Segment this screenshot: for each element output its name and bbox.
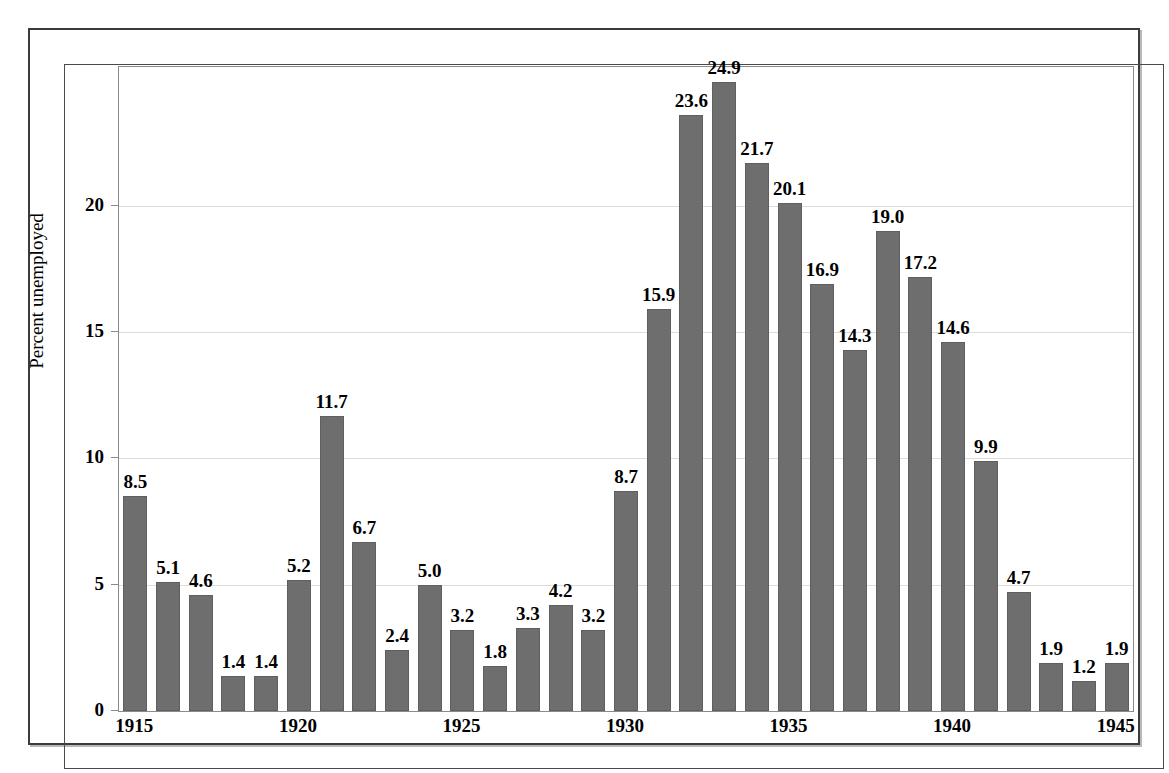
bar-value-label: 4.6 (177, 571, 225, 590)
bar[interactable] (581, 630, 605, 711)
bar[interactable] (679, 115, 703, 711)
bar-value-label: 4.2 (537, 581, 585, 600)
bar[interactable] (712, 82, 736, 711)
bar-value-label: 9.9 (962, 437, 1010, 456)
bar-value-label: 8.7 (602, 467, 650, 486)
bar-value-label: 19.0 (864, 207, 912, 226)
x-tick-label: 1930 (585, 716, 665, 735)
y-tick-label: 20 (64, 195, 104, 214)
y-tick-label: 15 (64, 321, 104, 340)
bar[interactable] (1072, 681, 1096, 711)
gridline (119, 332, 1133, 333)
plot-area: 8.55.14.61.41.45.211.76.72.45.03.21.83.3… (118, 66, 1134, 712)
bar[interactable] (810, 284, 834, 711)
bar-value-label: 2.4 (373, 626, 421, 645)
bar[interactable] (483, 666, 507, 711)
bar[interactable] (843, 350, 867, 711)
bar[interactable] (254, 676, 278, 711)
y-axis-label: Percent unemployed (26, 11, 48, 571)
x-axis-line (119, 711, 1133, 712)
bar-value-label: 1.9 (1093, 639, 1141, 658)
bar[interactable] (908, 277, 932, 711)
bar[interactable] (320, 416, 344, 711)
bar[interactable] (156, 582, 180, 711)
bar[interactable] (123, 496, 147, 711)
x-tick-label: 1920 (258, 716, 338, 735)
bar-value-label: 1.4 (242, 652, 290, 671)
bar-value-label: 15.9 (635, 285, 683, 304)
bar[interactable] (287, 580, 311, 711)
figure-container: Percent unemployed 05101520 8.55.14.61.4… (0, 0, 1169, 773)
bar-value-label: 23.6 (667, 91, 715, 110)
bar-value-label: 24.9 (700, 58, 748, 77)
bar-value-label: 14.3 (831, 326, 879, 345)
y-tick-label: 5 (64, 574, 104, 593)
bar-value-label: 17.2 (896, 253, 944, 272)
bar-value-label: 4.7 (995, 568, 1043, 587)
bar[interactable] (647, 309, 671, 711)
bar[interactable] (516, 628, 540, 711)
bar-value-label: 6.7 (340, 518, 388, 537)
y-tick-label: 10 (64, 447, 104, 466)
bar-value-label: 5.2 (275, 556, 323, 575)
bar-value-label: 14.6 (929, 318, 977, 337)
x-tick-label: 1915 (94, 716, 174, 735)
y-tick-mark (111, 710, 118, 711)
bar[interactable] (385, 650, 409, 711)
y-tick-mark (111, 584, 118, 585)
bar[interactable] (614, 491, 638, 711)
bar[interactable] (876, 231, 900, 711)
x-tick-label: 1940 (912, 716, 992, 735)
bar-value-label: 20.1 (766, 179, 814, 198)
bar[interactable] (745, 163, 769, 711)
gridline (119, 458, 1133, 459)
y-tick-mark (111, 457, 118, 458)
bar-value-label: 8.5 (111, 472, 159, 491)
bar[interactable] (778, 203, 802, 711)
bar-value-label: 1.9 (1027, 639, 1075, 658)
bar[interactable] (1105, 663, 1129, 711)
bar-value-label: 21.7 (733, 139, 781, 158)
bar[interactable] (221, 676, 245, 711)
y-tick-mark (111, 205, 118, 206)
x-tick-label: 1925 (421, 716, 501, 735)
bar-value-label: 1.2 (1060, 657, 1108, 676)
bar-value-label: 3.2 (569, 606, 617, 625)
bar-value-label: 3.2 (438, 606, 486, 625)
bar-value-label: 11.7 (308, 392, 356, 411)
bar-value-label: 1.8 (471, 642, 519, 661)
bar[interactable] (418, 585, 442, 711)
x-tick-label: 1945 (1076, 716, 1156, 735)
bar-value-label: 5.0 (406, 561, 454, 580)
bar-value-label: 16.9 (798, 260, 846, 279)
gridline (119, 206, 1133, 207)
bar[interactable] (941, 342, 965, 711)
y-tick-mark (111, 331, 118, 332)
bar-value-label: 3.3 (504, 604, 552, 623)
x-tick-label: 1935 (749, 716, 829, 735)
